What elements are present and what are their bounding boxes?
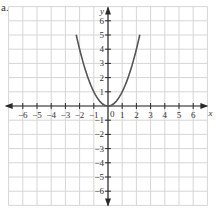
- y-tick-label: −5: [94, 172, 104, 182]
- x-tick-label: 1: [120, 110, 125, 120]
- y-axis-up-arrow-icon: [105, 7, 111, 15]
- x-tick-label: 6: [191, 110, 196, 120]
- y-tick-label: 1: [100, 87, 105, 97]
- y-tick-label: −3: [94, 144, 104, 154]
- y-axis-label: y: [99, 6, 104, 16]
- x-tick-label: 5: [177, 110, 182, 120]
- y-tick-label: −4: [94, 158, 104, 168]
- y-tick-label: 3: [100, 58, 105, 68]
- x-axis-label: x: [207, 108, 212, 118]
- coordinate-plane-chart: −6−5−4−3−2−1123456−6−5−4−3−2−11234560xy: [0, 0, 216, 212]
- y-tick-label: 5: [100, 30, 105, 40]
- x-tick-label: −4: [46, 110, 56, 120]
- x-tick-label: −3: [61, 110, 71, 120]
- origin-label: 0: [110, 109, 115, 119]
- y-tick-label: −6: [94, 186, 104, 196]
- y-tick-label: 6: [100, 16, 105, 26]
- x-tick-label: 4: [163, 110, 168, 120]
- x-tick-label: 3: [148, 110, 153, 120]
- y-tick-label: 2: [100, 73, 105, 83]
- x-tick-label: −2: [75, 110, 85, 120]
- y-tick-label: 4: [100, 44, 105, 54]
- x-tick-label: 2: [134, 110, 139, 120]
- y-tick-label: −2: [94, 129, 104, 139]
- x-tick-label: −5: [32, 110, 42, 120]
- y-tick-label: −1: [94, 115, 104, 125]
- x-tick-label: −6: [18, 110, 28, 120]
